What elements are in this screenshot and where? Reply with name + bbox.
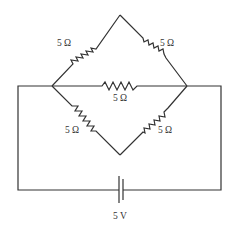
resistor-bottom-left (52, 86, 120, 155)
outer-wire-left (18, 86, 119, 190)
label-resistor-bottom-left: 5 Ω (65, 125, 79, 135)
label-resistor-middle: 5 Ω (113, 93, 127, 103)
label-resistor-top-left: 5 Ω (57, 38, 71, 48)
battery (119, 176, 123, 203)
circuit-diagram: 5 Ω 5 Ω 5 Ω 5 Ω 5 Ω 5 V (0, 0, 230, 231)
label-resistor-bottom-right: 5 Ω (158, 125, 172, 135)
label-battery: 5 V (113, 211, 127, 221)
resistor-middle (52, 82, 187, 90)
resistor-top-left (52, 15, 120, 86)
resistor-top-right (120, 15, 187, 86)
label-resistor-top-right: 5 Ω (160, 38, 174, 48)
resistor-bottom-right (120, 86, 187, 155)
